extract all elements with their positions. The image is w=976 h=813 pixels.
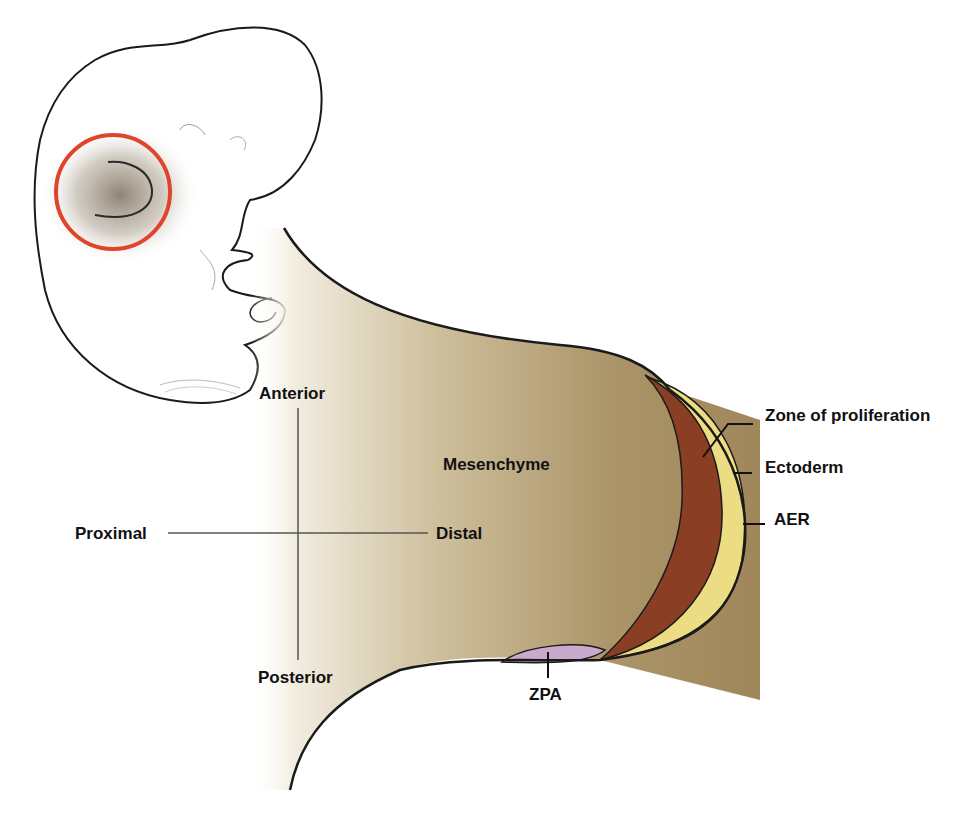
mesenchyme-label: Mesenchyme <box>443 456 550 473</box>
zone-of-proliferation-label: Zone of proliferation <box>765 407 930 424</box>
zpa-label: ZPA <box>529 686 562 703</box>
posterior-label: Posterior <box>258 669 333 686</box>
aer-label: AER <box>774 511 810 528</box>
proximal-label: Proximal <box>75 525 147 542</box>
ectoderm-label: Ectoderm <box>765 459 843 476</box>
limb-bud <box>250 220 770 800</box>
distal-label: Distal <box>436 525 482 542</box>
anterior-label: Anterior <box>259 385 325 402</box>
